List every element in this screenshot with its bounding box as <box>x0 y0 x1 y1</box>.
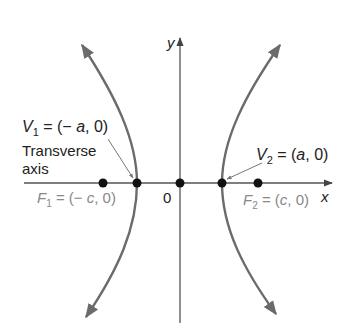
transverse-axis-label-line2: axis <box>22 160 49 177</box>
f1-label: F1 = (− c, 0) <box>37 189 116 209</box>
hyperbola-diagram: y x 0 V1 = (− a, 0) Transverse axis F1 =… <box>0 0 346 323</box>
left-branch-upper <box>82 45 137 183</box>
x-axis-label: x <box>320 188 329 205</box>
focus-f2-point <box>254 179 263 188</box>
origin-point <box>176 179 185 188</box>
v1-leader-arrow <box>108 139 133 178</box>
y-axis-label: y <box>166 34 176 51</box>
vertex-v2-point <box>218 179 227 188</box>
vertex-v1-point <box>133 179 142 188</box>
transverse-axis-label-line1: Transverse <box>22 142 96 159</box>
origin-label: 0 <box>163 189 171 206</box>
focus-f1-point <box>99 179 108 188</box>
v2-leader-arrow <box>227 163 262 179</box>
f2-label: F2 = (c, 0) <box>243 191 309 211</box>
v1-label: V1 = (− a, 0) <box>22 118 108 138</box>
v2-label: V2 = (a, 0) <box>256 146 328 166</box>
